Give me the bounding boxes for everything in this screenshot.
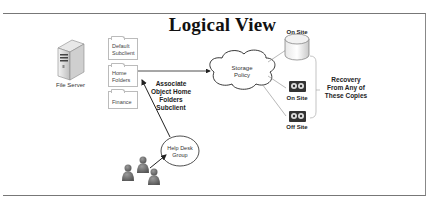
disk-cylinder-icon	[285, 34, 309, 60]
associate-note: Associate Object Home Folders Subclient	[143, 80, 199, 112]
tape-cartridge-icon	[289, 111, 306, 122]
copy-label-tape-onsite: On Site	[282, 94, 312, 102]
file-server-label: File Server	[56, 82, 85, 89]
diagram-graphics	[0, 0, 445, 210]
subclient-finance[interactable]: Finance	[108, 91, 138, 109]
subclient-home-folders[interactable]: Home Folders	[108, 65, 138, 87]
storage-policy-label: Storage Policy	[222, 65, 262, 79]
users-group-icon	[122, 157, 160, 186]
server-tower-icon	[58, 40, 84, 80]
tape-cartridge-icon	[289, 81, 306, 92]
subclient-default[interactable]: Default Subclient	[108, 38, 138, 60]
copy-label-tape-offsite: Off Site	[282, 123, 312, 131]
help-desk-label: Help Desk Group	[162, 145, 198, 159]
copy-label-disk: On Site	[282, 28, 312, 36]
recovery-note: Recovery From Any of These Copies	[318, 76, 374, 100]
